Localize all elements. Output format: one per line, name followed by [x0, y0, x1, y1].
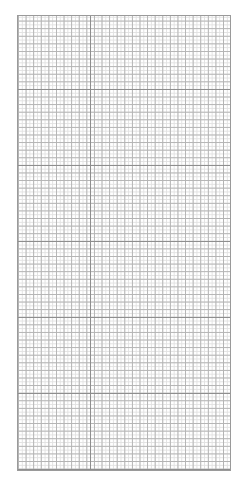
major-vertical-gridline [90, 16, 91, 470]
graph-grid [17, 15, 231, 471]
graph-paper-page [0, 0, 240, 480]
